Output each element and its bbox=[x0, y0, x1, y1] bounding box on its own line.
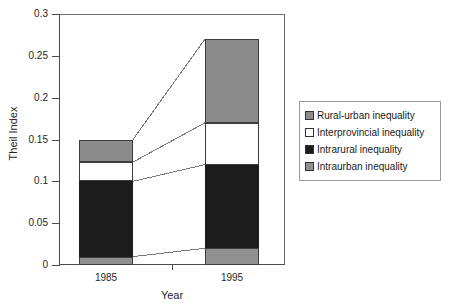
bar-1995-segment-intraurban bbox=[205, 248, 259, 265]
y-tick-label-0.25: 0.25 bbox=[0, 51, 48, 61]
legend-swatch-interprovincial-icon bbox=[305, 128, 314, 137]
legend-item-rural-urban[interactable]: Rural-urban inequality bbox=[305, 107, 436, 124]
legend-item-intraurban[interactable]: Intraurban inequality bbox=[305, 158, 436, 175]
bar-1985-segment-intrarural bbox=[79, 181, 133, 256]
bar-1985-segment-intraurban bbox=[79, 257, 133, 265]
y-tick-0 bbox=[52, 265, 60, 266]
legend-item-intrarural[interactable]: Intrarural inequality bbox=[305, 141, 436, 158]
bar-1985-segment-rural-urban bbox=[79, 140, 133, 163]
chart-legend: Rural-urban inequality Interprovincial i… bbox=[299, 101, 441, 181]
legend-label-intrarural: Intrarural inequality bbox=[317, 145, 402, 155]
y-tick-label-0.05: 0.05 bbox=[0, 218, 48, 228]
x-tick-label-1985: 1985 bbox=[71, 273, 141, 283]
bar-1995-segment-intrarural bbox=[205, 165, 259, 249]
legend-swatch-intraurban-icon bbox=[305, 162, 314, 171]
x-axis-title: Year bbox=[59, 290, 285, 301]
y-tick-label-0.3: 0.3 bbox=[0, 9, 48, 19]
legend-label-interprovincial: Interprovincial inequality bbox=[317, 128, 424, 138]
x-tick-mid bbox=[172, 265, 173, 270]
legend-swatch-rural-urban-icon bbox=[305, 111, 314, 120]
legend-swatch-intrarural-icon bbox=[305, 145, 314, 154]
bar-1995-segment-interprovincial bbox=[205, 123, 259, 165]
legend-label-rural-urban: Rural-urban inequality bbox=[317, 111, 415, 121]
legend-item-interprovincial[interactable]: Interprovincial inequality bbox=[305, 124, 436, 141]
bar-1985-segment-interprovincial bbox=[79, 162, 133, 181]
y-axis-title: Theil Index bbox=[8, 89, 19, 179]
bar-1995-segment-rural-urban bbox=[205, 39, 259, 123]
x-tick-label-1995: 1995 bbox=[197, 273, 267, 283]
theil-index-stacked-bar-chart: 0.3 0.25 0.2 0.15 0.1 0.05 0 Theil Index… bbox=[0, 0, 450, 307]
legend-label-intraurban: Intraurban inequality bbox=[317, 162, 408, 172]
y-tick-label-0: 0 bbox=[0, 260, 48, 270]
